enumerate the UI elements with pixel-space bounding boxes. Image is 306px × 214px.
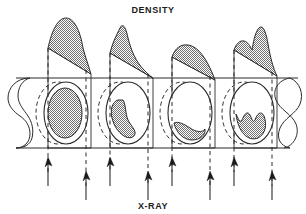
x-ray-beam-1 [45,157,52,186]
cross-section-4 [222,82,274,144]
x-ray-beam-7 [231,157,238,186]
density-title: DENSITY [131,5,174,15]
tube-right-endcap-inner [278,78,301,148]
xray-title: X-RAY [138,201,168,211]
x-ray-beam-5 [169,157,176,186]
x-ray-beam-2 [83,171,90,200]
x-ray-beam-8 [269,171,276,200]
x-ray-beam-6 [207,171,214,200]
cross-section-3 [160,82,212,144]
x-ray-beam-4 [145,171,152,200]
inclusion-1 [48,88,82,138]
x-ray-beams [45,157,276,200]
figure-canvas: DENSITY [0,0,306,214]
tube-left-endcap-inner [16,78,33,148]
cross-section-2 [98,82,150,144]
xray-density-figure: DENSITY [0,0,306,214]
x-ray-beam-3 [107,157,114,186]
cross-section-1 [36,82,88,144]
cross-sections [36,82,274,144]
